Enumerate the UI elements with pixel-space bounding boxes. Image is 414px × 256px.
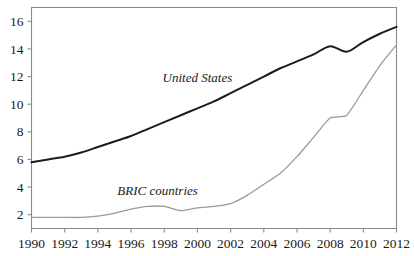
- x-tick-label: 2012: [383, 236, 410, 251]
- y-tick-label: 16: [10, 14, 24, 29]
- x-tick-label: 1996: [118, 236, 145, 251]
- x-tick-label: 2010: [350, 236, 377, 251]
- y-tick-label: 2: [17, 207, 24, 222]
- x-tick-label: 1998: [151, 236, 178, 251]
- y-tick-label: 14: [10, 42, 24, 57]
- plot-border: [32, 8, 397, 229]
- chart-canvas: 246810121416 199019921994199619982000200…: [0, 0, 414, 256]
- x-tick-label: 2000: [184, 236, 211, 251]
- series-group: [32, 27, 397, 218]
- united-states-line: [32, 27, 397, 162]
- x-tick-label: 1990: [18, 236, 45, 251]
- x-axis-tick-labels: 1990199219941996199820002002200420062008…: [18, 236, 410, 251]
- y-tick-label: 12: [10, 69, 24, 84]
- y-axis-tick-labels: 246810121416: [10, 14, 24, 222]
- united-states-label: United States: [163, 70, 233, 85]
- x-tick-label: 1994: [84, 236, 111, 251]
- bric-countries-label: BRIC countries: [117, 183, 198, 198]
- y-tick-label: 4: [17, 180, 24, 195]
- y-tick-label: 8: [17, 124, 24, 139]
- line-chart: 246810121416 199019921994199619982000200…: [0, 0, 414, 256]
- x-tick-label: 2002: [217, 236, 244, 251]
- x-tick-label: 2006: [283, 236, 310, 251]
- y-tick-label: 6: [17, 152, 24, 167]
- y-tick-label: 10: [10, 97, 24, 112]
- x-tick-label: 1992: [51, 236, 78, 251]
- plot-frame: [32, 8, 397, 229]
- x-tick-label: 2008: [317, 236, 344, 251]
- x-tick-label: 2004: [250, 236, 277, 251]
- y-axis-ticks: [28, 21, 32, 214]
- x-axis-ticks: [32, 229, 397, 233]
